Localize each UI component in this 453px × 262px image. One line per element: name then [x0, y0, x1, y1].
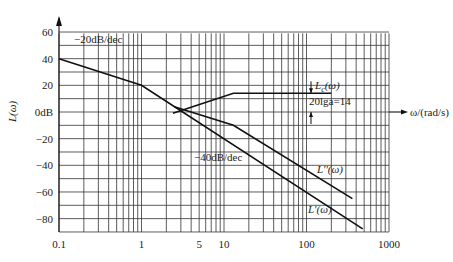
slope-label-40: −40dB/dec [194, 151, 242, 163]
dimension-arrow-up [309, 112, 313, 117]
x-tick-label: 0.1 [52, 238, 66, 250]
y-tick-label: −80 [36, 213, 54, 225]
y-tick-label: 0dB [35, 106, 53, 118]
y-tick-label: −60 [36, 186, 54, 198]
label-L-prime: L'(ω) [307, 203, 332, 216]
label-Lc: Lc(ω) [314, 79, 340, 94]
x-axis-arrow [401, 110, 408, 115]
y-tick-label: −20 [36, 133, 54, 145]
y-tick-label: 40 [42, 53, 54, 65]
x-tick-label: 10 [219, 238, 231, 250]
y-tick-label: −40 [36, 159, 54, 171]
y-axis-arrow [56, 16, 62, 26]
bode-plot: ω/(rad/s)L(ω) 6040200dB−20−40−60−800.115… [0, 0, 453, 262]
curve-Lc [173, 93, 331, 113]
x-tick-label: 5 [196, 238, 202, 250]
x-tick-label: 1000 [378, 238, 401, 250]
x-tick-label: 100 [298, 238, 315, 250]
gain-label: 20lga=14 [309, 95, 351, 107]
y-tick-label: 20 [42, 79, 54, 91]
x-axis-label: ω/(rad/s) [410, 106, 449, 119]
slope-label-20: −20dB/dec [74, 33, 122, 45]
grid [59, 32, 389, 232]
annotations: −20dB/dec−40dB/dec20lga=14L''(ω)L'(ω)Lc(… [74, 33, 351, 216]
label-L-double-prime: L''(ω) [316, 163, 343, 176]
y-tick-label: 60 [42, 26, 54, 38]
y-axis-label: L(ω) [6, 100, 19, 123]
x-tick-label: 1 [139, 238, 145, 250]
